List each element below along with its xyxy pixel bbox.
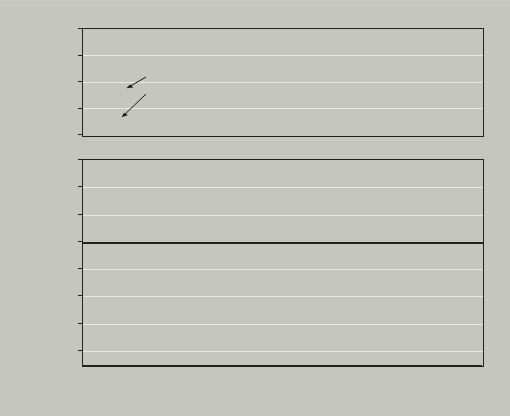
x-axis-line: [82, 365, 482, 366]
figure-container: [0, 7, 510, 416]
bottom-gridline-40: [83, 187, 483, 188]
bottom-zero-line: [83, 242, 483, 244]
bottom-gridline-m40: [83, 296, 483, 297]
bottom-gridline-m20: [83, 269, 483, 270]
bottom-plot-area: [82, 159, 484, 367]
bottom-gridline-m60: [83, 324, 483, 325]
bottom-gridline-20: [83, 215, 483, 216]
bottom-gridline-m80: [83, 351, 483, 352]
